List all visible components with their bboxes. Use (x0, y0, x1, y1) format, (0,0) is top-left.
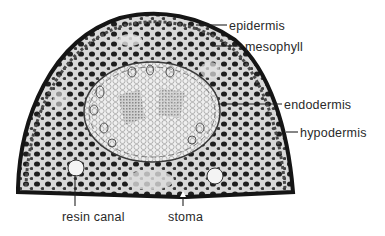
label-stoma: stoma (168, 210, 203, 224)
label-endodermis: endodermis (284, 98, 351, 112)
vascular-cylinder (84, 62, 220, 162)
label-hypodermis: hypodermis (300, 126, 367, 140)
label-mesophyll: mesophyll (245, 40, 303, 54)
label-resin-canal: resin canal (62, 210, 125, 224)
pine-needle-cross-section (0, 0, 385, 236)
label-epidermis: epidermis (229, 19, 285, 33)
